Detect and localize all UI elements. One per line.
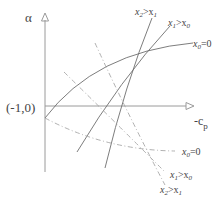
dashdot-curve-x2-gt-x1	[95, 43, 165, 185]
label-solid-x1-gt-x0: x1>x0	[167, 17, 191, 30]
label-dashdot-x1-gt-x0: x1>x0	[169, 169, 193, 182]
axes	[42, 13, 195, 172]
x-axis-label-sub: p	[203, 121, 208, 131]
dashdot-curve-x0-eq-0	[45, 118, 175, 151]
label-dashdot-x0-eq-0: x0=0	[181, 146, 201, 159]
label-solid-x2-gt-x1: x2>x1	[134, 6, 157, 19]
y-axis-arrow-icon	[42, 13, 49, 21]
label-dashdot-x2-gt-x1: x2>x1	[159, 184, 182, 197]
x-axis-label-main: -c	[194, 114, 203, 128]
origin-label: (-1,0)	[6, 100, 35, 115]
solid-curve-x1-gt-x0	[77, 26, 170, 152]
solid-curve-x0-eq-0	[45, 43, 193, 118]
y-axis-label: α	[25, 10, 32, 25]
label-solid-x0-eq-0: x0=0	[192, 38, 212, 51]
diagram-canvas: α (-1,0) -cp x2>x1 x1>x0 x0=0 x0=0	[0, 0, 221, 205]
x-axis-arrow-icon	[186, 103, 194, 110]
dashdot-curve-x1-gt-x0	[64, 72, 165, 172]
x-axis-label: -cp	[194, 114, 208, 131]
